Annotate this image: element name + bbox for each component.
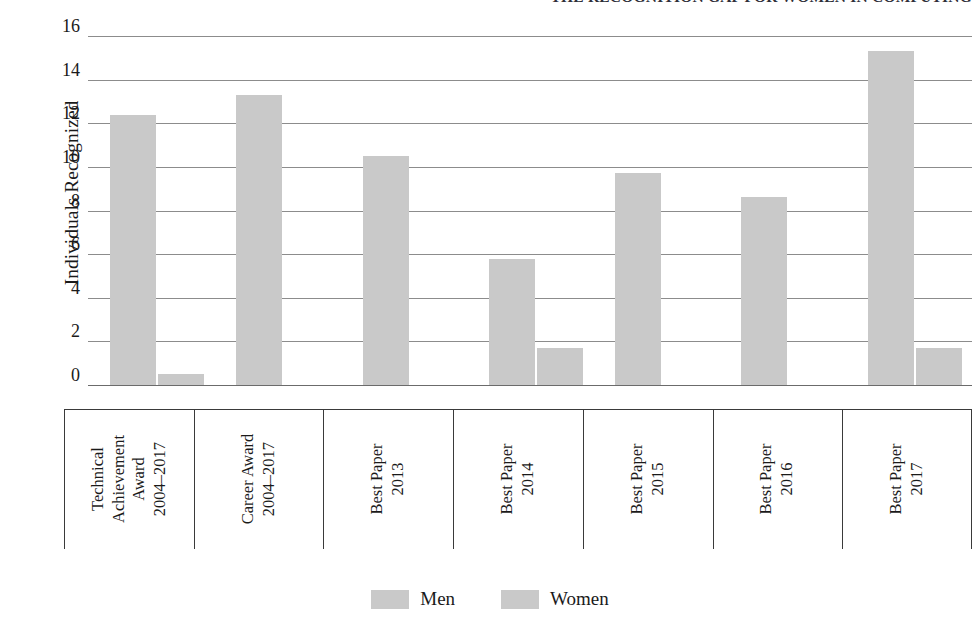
y-tick-label-0: 0 [52, 366, 80, 384]
y-tick-label-6: 6 [52, 235, 80, 253]
y-tick-label-16: 16 [52, 17, 80, 35]
category-label: TechnicalAchievementAward2004–2017 [88, 435, 171, 523]
category-divider [453, 409, 454, 549]
category-label: Career Award2004–2017 [238, 434, 279, 525]
category-divider [64, 409, 65, 549]
chart-title-clipped: THE RECOGNITION GAP FOR WOMEN IN COMPUTI… [0, 0, 980, 7]
bar-women [916, 348, 962, 385]
category-cell: Best Paper2015 [583, 409, 713, 549]
chart-title-text: THE RECOGNITION GAP FOR WOMEN IN COMPUTI… [0, 0, 980, 6]
plot-area: 0246810121416 [88, 36, 972, 385]
category-cell: Best Paper2017 [842, 409, 972, 549]
category-divider [842, 409, 843, 549]
bar-men [868, 51, 914, 385]
y-tick-label-14: 14 [52, 61, 80, 79]
bar-group [719, 36, 845, 385]
bar-group [593, 36, 719, 385]
bar-men [236, 95, 282, 385]
bar-group [88, 36, 214, 385]
category-cell: Career Award2004–2017 [194, 409, 324, 549]
bar-group [846, 36, 972, 385]
category-divider [713, 409, 714, 549]
category-cell: Best Paper2016 [713, 409, 843, 549]
category-label: Best Paper2014 [497, 443, 538, 514]
category-cell: Best Paper2013 [323, 409, 453, 549]
legend-item: Women [501, 588, 609, 610]
category-label: Best Paper2015 [627, 443, 668, 514]
category-cell: Best Paper2014 [453, 409, 583, 549]
bar-men [489, 259, 535, 386]
legend-label: Men [420, 588, 455, 610]
y-tick-label-8: 8 [52, 192, 80, 210]
bar-women [158, 374, 204, 385]
x-axis-baseline [88, 385, 972, 386]
category-divider [323, 409, 324, 549]
bar-group [467, 36, 593, 385]
y-tick-label-2: 2 [52, 322, 80, 340]
bar-group [341, 36, 467, 385]
category-divider [583, 409, 584, 549]
category-label: Best Paper2013 [368, 443, 409, 514]
men-swatch [371, 590, 409, 609]
y-tick-label-12: 12 [52, 104, 80, 122]
category-label: Best Paper2017 [887, 443, 928, 514]
category-divider [194, 409, 195, 549]
y-tick-label-4: 4 [52, 279, 80, 297]
bar-men [110, 115, 156, 385]
bar-men [363, 156, 409, 385]
category-cell: TechnicalAchievementAward2004–2017 [64, 409, 194, 549]
category-label: Best Paper2016 [757, 443, 798, 514]
y-tick-label-10: 10 [52, 148, 80, 166]
legend-label: Women [550, 588, 609, 610]
bar-group [214, 36, 340, 385]
bar-women [537, 348, 583, 385]
bar-men [741, 197, 787, 385]
bar-chart-figure: THE RECOGNITION GAP FOR WOMEN IN COMPUTI… [0, 0, 980, 641]
bar-men [615, 173, 661, 385]
category-divider [971, 409, 972, 549]
women-swatch [501, 590, 539, 609]
category-label-table: TechnicalAchievementAward2004–2017Career… [64, 409, 972, 549]
chart-legend: MenWomen [0, 588, 980, 610]
legend-item: Men [371, 588, 455, 610]
